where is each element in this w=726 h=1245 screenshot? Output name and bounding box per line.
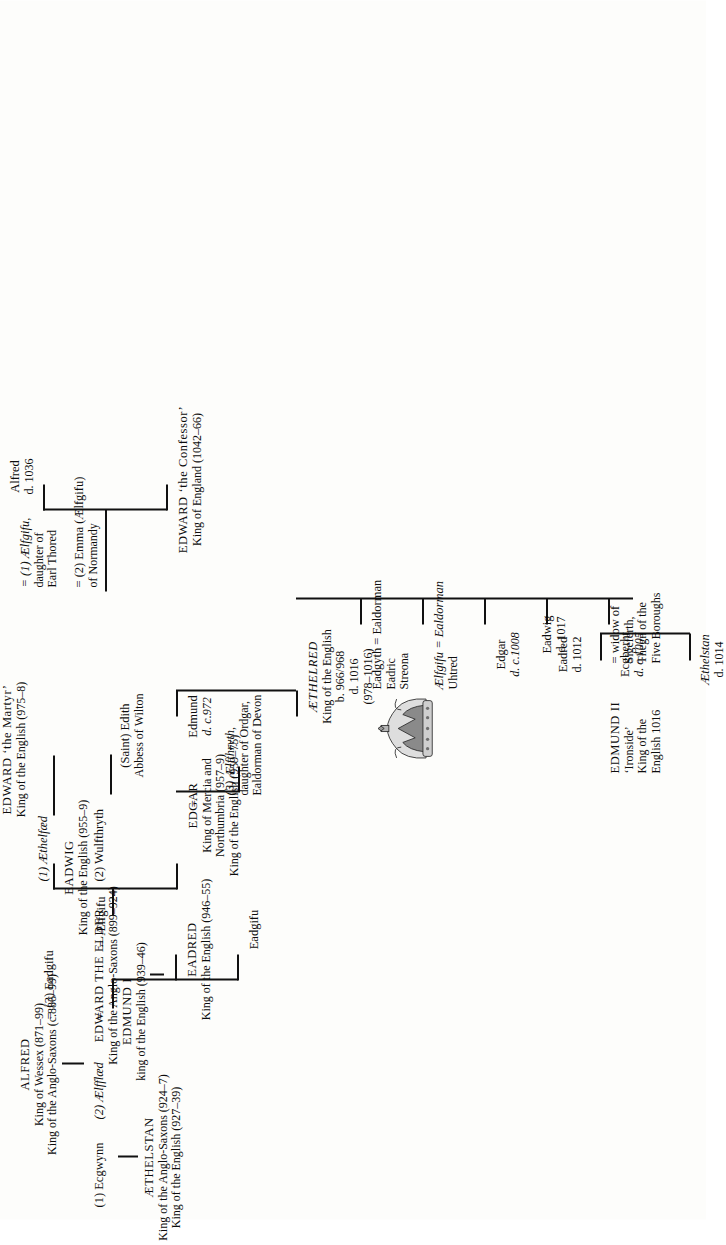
tick-edmund-972 [176, 690, 178, 716]
eadgyth-eadric-line-2: Streona [398, 489, 412, 689]
node-edmund-i: EDMUND I king of the English (939–46) [120, 921, 148, 1101]
tick-edward-confessor [166, 484, 168, 510]
aelfthryth-line-1: daughter of Ordgar, [238, 605, 252, 795]
edmund-ii-wife-line-3: Five Boroughs [650, 533, 664, 663]
eadwig-1017-name: Eadwig [540, 579, 555, 689]
edmund-972-line-1: d. c.972 [201, 661, 215, 771]
aelfgifu-uhtred-line-1: Uhtred [447, 489, 461, 689]
node-alfred-1036: Alfred d. 1036 [8, 421, 36, 531]
tick-eadgifu-daughter [237, 954, 239, 980]
aelfthryth-line-2: Ealdorman of Devon [251, 605, 265, 795]
alfred-name: ALFRED [18, 944, 33, 1184]
node-saint-edith: (Saint) Edith Abbess of Wilton [118, 655, 146, 815]
edmund-ii-name: EDMUND II [608, 653, 623, 773]
aethelstan-1014-line-1: d. 1014 [713, 599, 726, 719]
node-emma-normandy: = (2) Emma (Ælfgifu) of Normandy [72, 387, 100, 587]
marriage-symbol-edmund-i: = [94, 940, 110, 947]
aethelred-line-2: b. 966/968 [334, 581, 348, 771]
marriage-symbol-edgar: = [186, 800, 202, 807]
ecgwynn-name: (1) Ecgwynn [92, 1117, 107, 1207]
edmund-ii-line-1: ‘Ironside’ [623, 653, 637, 773]
tick-eadwig [53, 863, 55, 889]
eadgyth-eadric-line-1: Eadric [385, 489, 399, 689]
edward-confessor-line-1: King of England (1042–66) [191, 349, 205, 609]
edmund-ii-line-3: English 1016 [650, 653, 664, 773]
node-aelfgifu-uhtred: Ælfgifu = Ealdorman Uhtred [432, 489, 460, 689]
edgar-1008-name: Edgar [494, 599, 509, 709]
saint-edith-name: (Saint) Edith [118, 655, 133, 815]
aethelred-name: ÆTHELRED [306, 581, 321, 771]
connector-ecgwynn-aethelstan [118, 1155, 138, 1157]
line-edgar-aethelflaed [53, 755, 55, 815]
node-edward-the-confessor: EDWARD ‘the Confessor’ King of England (… [176, 349, 204, 609]
aethelflaed-name: (1) Æthelfæd [36, 751, 51, 881]
tick-edgar [176, 863, 178, 889]
tick-aelfgifu-uhtred [422, 598, 424, 624]
edmund-ii-wife-name: = widow of [608, 533, 623, 663]
node-eadgifu-wife: (3) Eadgifu [42, 897, 57, 1007]
connector-alfred-to-edward-elder [62, 1062, 84, 1064]
edward-martyr-name: EDWARD ‘the Martyr’ [0, 629, 15, 869]
saint-edith-line-1: Abbess of Wilton [133, 655, 147, 815]
emma-normandy-name: = (2) Emma (Ælfgifu) [72, 387, 87, 587]
alfred-1036-line-1: d. 1036 [23, 421, 37, 531]
eadgyth-eadric-name: Eadgyth = Ealdorman [370, 489, 385, 689]
tick-aethelstan-1014 [689, 633, 691, 660]
node-edward-the-martyr: EDWARD ‘the Martyr’ King of the English … [0, 629, 28, 869]
edmund-i-title-1: king of the English (939–46) [135, 921, 149, 1101]
bus-emma-issue [43, 508, 167, 510]
node-eadgifu-daughter: Eadgifu [247, 869, 262, 989]
tick-aethelred [296, 690, 298, 716]
aethelstan-title-2: King of the English (927–39) [170, 1045, 184, 1245]
edgar-1008-line-1: d. c.1008 [509, 599, 523, 709]
node-aethelflaed: (1) Æthelfæd [36, 751, 51, 881]
aethelstan-title-1: King of the Anglo-Saxons (924–7) [157, 1045, 171, 1245]
connector-edward-elder-stem [150, 973, 164, 975]
node-edmund-972: Edmund d. c.972 [186, 661, 214, 771]
tick-edmund-ii [600, 633, 602, 660]
node-eadwig: EADWIG King of the English (955–9) [62, 751, 90, 983]
wulfthryth-name: (2) Wulfthryth [92, 741, 107, 881]
edmund-i-name: EDMUND I [120, 921, 135, 1101]
eadgifu-daughter-name: Eadgifu [247, 869, 262, 989]
aethelred-line-3: d. 1016 [348, 581, 362, 771]
node-wulfthryth: (2) Wulfthryth [92, 741, 107, 881]
aelfgifu-uhtred-name: Ælfgifu = Ealdorman [432, 489, 447, 689]
aelfgifu-thored-line-2: Earl Thored [46, 407, 60, 587]
edmund-972-name: Edmund [186, 661, 201, 771]
tick-edgar-1008 [484, 598, 486, 624]
edmund-ii-line-2: King of the [636, 653, 650, 773]
marriage-symbol-edward-elder-3: = [42, 1012, 58, 1019]
node-aethelstan-1014: Æthelstan d. 1014 [698, 599, 726, 719]
eadred-1012-name: Eadred [556, 599, 571, 709]
aelfthryth-name: (3) Ælfthryth, [223, 605, 238, 795]
emma-normandy-line-1: of Normandy [87, 387, 101, 587]
node-edgar-1008: Edgar d. c.1008 [494, 599, 522, 709]
edward-elder-title-1: King of the Anglo-Saxons (899–924) [107, 849, 121, 1101]
alfred-1036-name: Alfred [8, 421, 23, 531]
eadwig-title-1: King of the English (955–9) [77, 751, 91, 983]
node-aethelred: ÆTHELRED King of the English b. 966/968 … [306, 581, 376, 771]
eadgifu-wife-name: (3) Eadgifu [42, 897, 57, 1007]
node-edmund-ii: EDMUND II ‘Ironside’ King of the English… [608, 653, 664, 773]
eadwig-name: EADWIG [62, 751, 77, 983]
edmund-ii-wife-line-2: Thegn of the [636, 533, 650, 663]
edward-confessor-name: EDWARD ‘the Confessor’ [176, 349, 191, 609]
node-eadgyth-eadric: Eadgyth = Ealdorman Eadric Streona [370, 489, 412, 689]
node-edmund-ii-wife: = widow of Sigeferth, Thegn of the Five … [608, 533, 664, 663]
crown-icon [378, 689, 440, 767]
node-eadred-1012: Eadred d. 1012 [556, 599, 584, 709]
edmund-ii-wife-line-1: Sigeferth, [623, 533, 637, 663]
line-edgar-wulfthryth [110, 754, 112, 794]
edward-martyr-title-1: King of the English (975–8) [15, 629, 29, 869]
stem-emma-issue [105, 509, 107, 591]
aethelred-line-1: King of the English [321, 581, 335, 771]
node-aelfthryth: (3) Ælfthryth, daughter of Ordgar, Ealdo… [223, 605, 265, 795]
node-ecgwynn: (1) Ecgwynn [92, 1117, 107, 1207]
aethelstan-1014-name: Æthelstan [698, 599, 713, 719]
eadred-1012-line-1: d. 1012 [571, 599, 585, 709]
tick-eadred [175, 954, 177, 980]
